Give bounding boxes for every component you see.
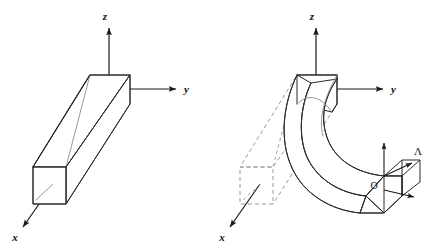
left-y-axis-label: y xyxy=(182,83,189,95)
beam-deformation-diagram: z y x xyxy=(0,0,434,251)
left-z-axis-label: z xyxy=(102,10,108,22)
origin-label: O xyxy=(370,180,377,191)
left-x-axis-label: x xyxy=(11,231,18,243)
ghost-axis-piercing-mark xyxy=(243,184,260,200)
triad-arrow-lambda xyxy=(384,163,412,176)
right-z-axis-label: z xyxy=(309,10,315,22)
right-y-axis-label: y xyxy=(389,83,396,95)
triad-frame-bottom xyxy=(402,182,420,196)
right-x-axis-label: x xyxy=(218,231,225,243)
triad-lambda-label: Λ xyxy=(414,145,422,157)
panel-deformed-beam: Λ O z y x xyxy=(218,10,422,243)
right-x-axis xyxy=(230,184,260,227)
panel-undeformed-beam: z y x xyxy=(11,10,189,243)
figure-root: z y x xyxy=(0,0,434,251)
